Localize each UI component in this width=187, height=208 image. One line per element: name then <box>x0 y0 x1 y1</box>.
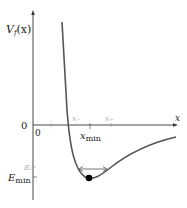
potential-curve <box>62 22 176 178</box>
x-axis-label: x <box>175 113 180 123</box>
potential-diagram: Vf(x) x 0 0 x₋ x₊ xmin E₀ Emin <box>0 0 187 208</box>
y-axis-arrow-icon <box>31 10 35 15</box>
equilibrium-dot <box>86 175 93 182</box>
origin-y-label: 0 <box>21 120 27 131</box>
origin-x-label: 0 <box>35 128 41 138</box>
x-plus-label: x₊ <box>105 114 114 123</box>
E-min-label: Emin <box>7 172 31 185</box>
x-min-label: xmin <box>80 130 101 143</box>
E0-label: E₀ <box>23 163 34 172</box>
y-axis-label: Vf(x) <box>6 23 31 37</box>
x-minus-label: x₋ <box>72 114 81 123</box>
x-axis-arrow-icon <box>173 123 178 127</box>
